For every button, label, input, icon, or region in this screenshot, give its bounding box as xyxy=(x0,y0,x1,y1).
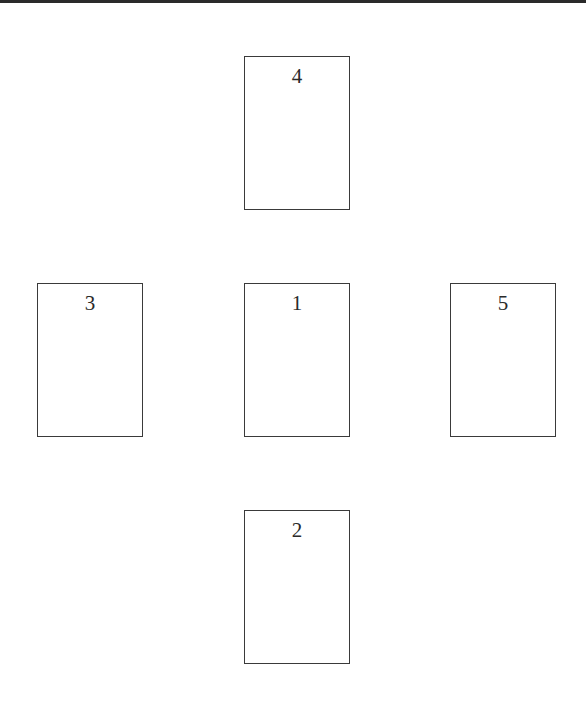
card-number-label: 2 xyxy=(245,520,349,541)
card-number-label: 5 xyxy=(451,293,555,314)
card-position-4: 4 xyxy=(244,56,350,210)
card-number-label: 3 xyxy=(38,293,142,314)
card-position-3: 3 xyxy=(37,283,143,437)
card-position-1: 1 xyxy=(244,283,350,437)
card-position-2: 2 xyxy=(244,510,350,664)
card-number-label: 4 xyxy=(245,66,349,87)
top-border-bar xyxy=(0,0,586,3)
card-number-label: 1 xyxy=(245,293,349,314)
card-position-5: 5 xyxy=(450,283,556,437)
